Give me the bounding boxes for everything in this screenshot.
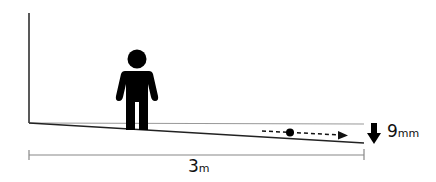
slope-diagram <box>0 0 436 182</box>
drop-value: 9 <box>387 121 398 141</box>
length-value: 3 <box>188 156 199 176</box>
down-arrow-icon <box>367 123 381 144</box>
length-unit: m <box>199 162 210 175</box>
drop-unit: mm <box>398 127 419 140</box>
length-label: 3m <box>188 158 210 175</box>
level-reference-line <box>29 123 364 124</box>
person-icon <box>116 50 158 131</box>
ball-icon <box>286 129 294 137</box>
drop-label: 9mm <box>387 123 419 140</box>
